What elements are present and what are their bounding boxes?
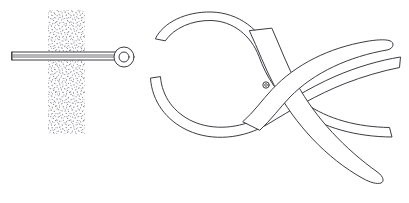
figure-canvas: Surgical instrument line drawing Patent-… xyxy=(0,0,409,203)
tissue-cross-section xyxy=(48,10,85,134)
technical-drawing-svg: Surgical instrument line drawing Patent-… xyxy=(0,0,409,203)
clamp-pivot xyxy=(263,82,269,88)
needle-shaft xyxy=(12,52,120,60)
needle-eye-aperture xyxy=(119,52,129,62)
tissue-stipple-overlay xyxy=(48,10,85,134)
pivot-hole xyxy=(265,84,268,87)
